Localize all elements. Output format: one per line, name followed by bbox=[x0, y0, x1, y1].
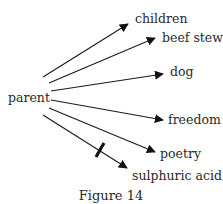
arrow-icon bbox=[49, 38, 155, 83]
edge-children bbox=[43, 24, 128, 77]
target-node-dog: dog bbox=[170, 64, 194, 79]
source-node-parent: parent bbox=[8, 90, 50, 105]
arrow-icon bbox=[51, 100, 163, 120]
block-bar-icon bbox=[96, 143, 104, 157]
target-node-sulphuric-acid: sulphuric acid bbox=[132, 168, 222, 183]
figure-caption: Figure 14 bbox=[79, 188, 143, 203]
target-node-children: children bbox=[135, 11, 187, 26]
target-node-poetry: poetry bbox=[160, 146, 202, 161]
arrow-icon bbox=[51, 74, 163, 91]
target-node-beef-stew: beef stew bbox=[162, 30, 223, 45]
edge-beef-stew bbox=[49, 38, 155, 83]
edge-freedom bbox=[51, 100, 163, 120]
edge-dog bbox=[51, 74, 163, 91]
diagram-canvas: parent children beef stew dog freedom po… bbox=[0, 0, 223, 204]
arrow-icon bbox=[43, 24, 128, 77]
target-node-freedom: freedom bbox=[168, 112, 221, 127]
